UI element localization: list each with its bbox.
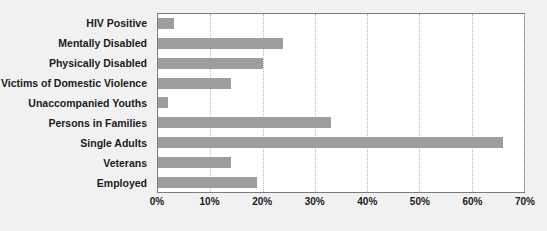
value-tick-label: 70% (515, 196, 535, 207)
bar-row (158, 157, 524, 168)
category-label: Victims of Domestic Violence (1, 78, 147, 89)
bar-series (158, 14, 524, 192)
value-tick-label: 20% (252, 196, 272, 207)
bar (158, 117, 331, 128)
category-label: Persons in Families (48, 118, 147, 129)
category-label: Physically Disabled (49, 58, 147, 69)
category-label: Mentally Disabled (58, 38, 147, 49)
value-tick-label: 30% (305, 196, 325, 207)
category-label: Veterans (103, 158, 147, 169)
value-tick-label: 40% (357, 196, 377, 207)
bar-row (158, 78, 524, 89)
bar-row (158, 137, 524, 148)
gridline (524, 14, 525, 192)
plot-area (157, 13, 525, 193)
value-tick-label: 60% (462, 196, 482, 207)
bar-row (158, 117, 524, 128)
bar (158, 78, 231, 89)
bar (158, 157, 231, 168)
bar (158, 177, 257, 188)
value-axis: 0%10%20%30%40%50%60%70% (157, 196, 525, 212)
bar (158, 137, 503, 148)
bar (158, 97, 168, 108)
value-tick-label: 50% (410, 196, 430, 207)
value-tick-label: 10% (200, 196, 220, 207)
value-tick-label: 0% (150, 196, 164, 207)
bar (158, 58, 263, 69)
bar (158, 38, 283, 49)
category-label: Unaccompanied Youths (28, 98, 147, 109)
bar-chart: HIV PositiveMentally DisabledPhysically … (0, 0, 547, 231)
category-axis: HIV PositiveMentally DisabledPhysically … (0, 13, 152, 193)
category-label: Employed (97, 178, 147, 189)
bar-row (158, 18, 524, 29)
bar-row (158, 97, 524, 108)
category-label: HIV Positive (86, 18, 147, 29)
category-label: Single Adults (80, 138, 147, 149)
bar-row (158, 38, 524, 49)
bar-row (158, 58, 524, 69)
bar (158, 18, 174, 29)
bar-row (158, 177, 524, 188)
